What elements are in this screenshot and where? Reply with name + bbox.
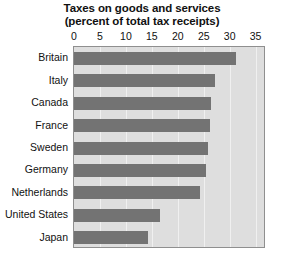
bar bbox=[74, 209, 160, 222]
x-axis-tick-labels: 05101520253035 bbox=[0, 30, 284, 44]
chart-title-block: Taxes on goods and services (percent of … bbox=[0, 2, 284, 28]
y-tick-label: Netherlands bbox=[11, 186, 68, 198]
bar bbox=[74, 186, 200, 199]
bar bbox=[74, 231, 148, 244]
y-tick-label: France bbox=[35, 119, 68, 131]
x-tick-label: 35 bbox=[250, 30, 262, 42]
y-tick-label: Japan bbox=[39, 231, 68, 243]
bar bbox=[74, 97, 211, 110]
bar-chart: Taxes on goods and services (percent of … bbox=[0, 0, 284, 260]
x-tick-label: 5 bbox=[97, 30, 103, 42]
y-axis-category-labels: BritainItalyCanadaFranceSwedenGermanyNet… bbox=[0, 46, 71, 248]
y-tick-label: Britain bbox=[38, 51, 68, 63]
y-tick-label: Canada bbox=[31, 96, 68, 108]
bar bbox=[74, 52, 236, 65]
x-tick-label: 10 bbox=[120, 30, 132, 42]
bar bbox=[74, 164, 206, 177]
x-tick-label: 15 bbox=[146, 30, 158, 42]
bar bbox=[74, 74, 215, 87]
x-tick-label: 30 bbox=[224, 30, 236, 42]
y-tick-label: United States bbox=[5, 208, 68, 220]
y-tick-label: Germany bbox=[25, 163, 68, 175]
x-tick-label: 20 bbox=[172, 30, 184, 42]
plot-area bbox=[73, 46, 265, 248]
gridline bbox=[230, 47, 231, 247]
y-tick-label: Sweden bbox=[30, 141, 68, 153]
x-tick-label: 25 bbox=[198, 30, 210, 42]
bar bbox=[74, 119, 210, 132]
bar bbox=[74, 142, 208, 155]
page-title: Taxes on goods and services bbox=[0, 2, 284, 15]
gridline bbox=[256, 47, 257, 247]
y-tick-label: Italy bbox=[49, 74, 68, 86]
chart-subtitle: (percent of total tax receipts) bbox=[0, 15, 284, 28]
x-tick-label: 0 bbox=[71, 30, 77, 42]
